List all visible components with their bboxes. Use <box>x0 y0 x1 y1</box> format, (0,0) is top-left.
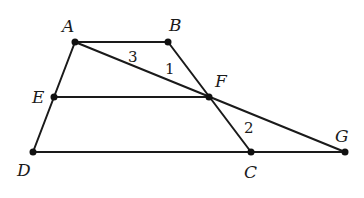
label-b: B <box>168 15 182 35</box>
angle-label-2: 2 <box>244 119 254 137</box>
angle-label-1: 1 <box>165 60 175 78</box>
label-c: C <box>244 162 257 182</box>
label-g: G <box>335 126 349 146</box>
point-a <box>72 39 79 46</box>
angle-label-3: 3 <box>128 48 138 66</box>
label-f: F <box>214 71 228 91</box>
label-e: E <box>31 87 45 107</box>
point-f <box>206 94 213 101</box>
point-c <box>248 149 255 156</box>
point-b <box>165 39 172 46</box>
point-e <box>51 94 58 101</box>
geometry-diagram: A B E F D C G 3 1 2 <box>0 0 364 198</box>
point-d <box>30 149 37 156</box>
point-g <box>342 149 349 156</box>
label-a: A <box>60 16 74 36</box>
label-d: D <box>16 160 31 180</box>
